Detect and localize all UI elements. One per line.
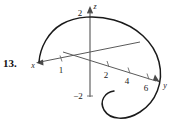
axis-label-x: x [30,61,35,70]
y-axis-arrowhead [153,75,160,83]
space-curve-path [39,17,160,118]
tick-label-y-6: 6 [144,83,149,93]
tick-label-z-neg2: −2 [73,91,83,101]
x-axis-tick-1 [60,56,62,62]
y-axis-line [63,52,156,81]
tick-label-y-2: 2 [104,70,109,80]
axis-label-y: y [162,81,167,90]
tick-label-x-1: 1 [59,65,64,75]
axis-label-z: z [92,2,97,11]
coordinate-plot: 1 2 4 6 2 −2 x y z [0,0,185,129]
tick-label-y-4: 4 [125,76,130,86]
figure-container: 13. 1 2 4 6 2 −2 x [0,0,185,129]
tick-label-z-2: 2 [78,8,83,18]
z-axis-arrowhead [87,6,93,13]
